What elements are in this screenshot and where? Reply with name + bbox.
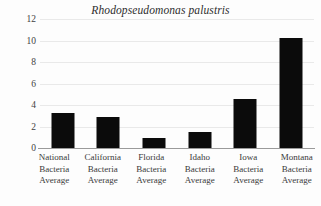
x-tick-label-line: Bacteria bbox=[176, 164, 225, 176]
x-tick-label-line: Bacteria bbox=[127, 164, 176, 176]
bar-slot bbox=[223, 0, 269, 148]
x-tick-label: NationalBacteriaAverage bbox=[30, 152, 79, 187]
bar bbox=[188, 132, 211, 148]
x-tick-label-line: Average bbox=[79, 175, 128, 187]
x-tick-label-line: California bbox=[79, 152, 128, 164]
x-tick-label-line: Montana bbox=[273, 152, 321, 164]
x-tick-label-line: Bacteria bbox=[79, 164, 128, 176]
x-axis-line bbox=[38, 148, 315, 149]
bar bbox=[143, 138, 166, 148]
x-tick-label-line: Iowa bbox=[224, 152, 273, 164]
bar-series bbox=[40, 0, 314, 148]
x-tick-label-line: National bbox=[30, 152, 79, 164]
y-tick-label: 12 bbox=[2, 14, 36, 24]
bar-slot bbox=[177, 0, 223, 148]
x-tick-label-line: Average bbox=[224, 175, 273, 187]
bar-slot bbox=[86, 0, 132, 148]
x-tick-label: IowaBacteriaAverage bbox=[224, 152, 273, 187]
x-tick-label: IdahoBacteriaAverage bbox=[176, 152, 225, 187]
y-tick-label: 6 bbox=[2, 79, 36, 89]
x-tick-label: MontanaBacteriaAverage bbox=[273, 152, 321, 187]
x-tick-label: FloridaBacteriaAverage bbox=[127, 152, 176, 187]
x-tick-label-line: Average bbox=[273, 175, 321, 187]
bar bbox=[280, 38, 303, 148]
x-tick-label-line: Average bbox=[176, 175, 225, 187]
x-tick-label-line: Average bbox=[127, 175, 176, 187]
y-tick-label: 4 bbox=[2, 100, 36, 110]
bar bbox=[97, 117, 120, 148]
bar-slot bbox=[40, 0, 86, 148]
x-tick-label-line: Idaho bbox=[176, 152, 225, 164]
x-tick-label-line: Florida bbox=[127, 152, 176, 164]
bar bbox=[234, 99, 257, 148]
x-tick-label: CaliforniaBacteriaAverage bbox=[79, 152, 128, 187]
bar-chart: Rhodopseudomonas palustris 121086420 Nat… bbox=[0, 0, 321, 206]
bar-slot bbox=[131, 0, 177, 148]
x-tick-label-line: Bacteria bbox=[224, 164, 273, 176]
bar-slot bbox=[268, 0, 314, 148]
x-tick-label-line: Bacteria bbox=[273, 164, 321, 176]
x-axis-labels: NationalBacteriaAverageCaliforniaBacteri… bbox=[30, 152, 321, 202]
y-tick-label: 2 bbox=[2, 122, 36, 132]
bar bbox=[51, 113, 74, 148]
y-tick-label: 10 bbox=[2, 36, 36, 46]
x-tick-label-line: Bacteria bbox=[30, 164, 79, 176]
x-tick-label-line: Average bbox=[30, 175, 79, 187]
y-tick-label: 8 bbox=[2, 57, 36, 67]
